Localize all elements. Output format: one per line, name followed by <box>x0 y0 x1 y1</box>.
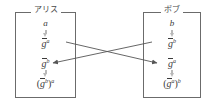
alice-received-exponent: b <box>47 58 50 64</box>
alice-shared-secret-term: (gb)a <box>37 78 55 89</box>
alice-received-term: gb <box>42 58 50 69</box>
alice-secret-term: a <box>43 18 48 29</box>
alice-term-column: a ga gb (gb)a <box>16 18 75 89</box>
bob-public-term: gb <box>168 38 176 49</box>
party-label-bob: ボブ <box>161 5 183 15</box>
alice-step-arrow-2 <box>43 70 48 77</box>
alice-public-exponent: a <box>47 38 50 44</box>
alice-step-arrow-1 <box>43 30 48 37</box>
party-box-bob: ボブ b gb ga (ga)b <box>143 12 201 98</box>
bob-shared-secret-term: (ga)b <box>163 78 181 89</box>
bob-shared-outer-exponent: b <box>178 78 181 84</box>
party-box-alice: アリス a ga gb (gb)a <box>15 12 76 98</box>
bob-public-exponent: b <box>173 38 176 44</box>
bob-received-term: ga <box>168 58 176 69</box>
alice-public-term: ga <box>42 38 50 49</box>
diffie-hellman-diagram: アリス a ga gb (gb)a ボブ b gb ga (ga)b <box>0 0 213 106</box>
bob-secret-term: b <box>170 18 175 29</box>
bob-received-exponent: a <box>173 58 176 64</box>
bob-term-column: b gb ga (ga)b <box>144 18 200 89</box>
bob-step-arrow-2 <box>170 70 175 77</box>
alice-shared-outer-exponent: a <box>51 78 54 84</box>
bob-step-arrow-1 <box>170 30 175 37</box>
party-label-alice: アリス <box>31 5 61 15</box>
